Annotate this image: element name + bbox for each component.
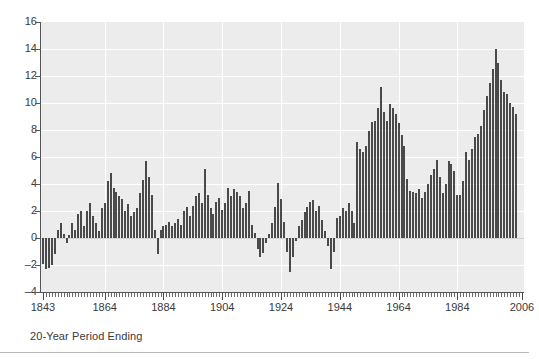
x-tick-major <box>522 293 523 300</box>
bar <box>448 161 450 238</box>
x-tick-minor <box>284 293 285 297</box>
x-tick-minor <box>155 293 156 297</box>
bar <box>80 211 82 238</box>
y-tick <box>35 184 41 185</box>
bar <box>142 180 144 238</box>
x-tick-minor <box>75 293 76 297</box>
x-tick-minor <box>272 293 273 297</box>
bar-series <box>41 22 524 292</box>
x-tick-minor <box>146 293 147 297</box>
x-tick-minor <box>501 293 502 297</box>
bar <box>365 146 367 238</box>
bar <box>60 223 62 238</box>
bar <box>189 216 191 238</box>
x-tick-minor <box>449 293 450 297</box>
x-tick-minor <box>240 293 241 297</box>
bar <box>409 191 411 238</box>
bar <box>459 195 461 238</box>
y-axis-label: –4 <box>3 286 37 297</box>
bar <box>221 210 223 238</box>
bar <box>254 233 256 238</box>
x-tick-major <box>43 293 44 300</box>
x-tick-minor <box>225 293 226 297</box>
bar <box>127 204 129 238</box>
x-axis-caption: 20-Year Period Ending <box>30 330 142 342</box>
x-tick-major <box>105 293 106 300</box>
x-tick-minor <box>190 293 191 297</box>
bar <box>45 238 47 269</box>
bar <box>115 192 117 238</box>
bar <box>439 177 441 238</box>
bar <box>283 222 285 238</box>
bar <box>48 238 50 268</box>
x-tick-minor <box>422 293 423 297</box>
y-axis-label: 0 <box>3 232 37 243</box>
bar <box>101 208 103 238</box>
bar <box>86 211 88 238</box>
bar <box>412 192 414 238</box>
x-tick-minor <box>278 293 279 297</box>
x-tick-minor <box>87 293 88 297</box>
x-tick-minor <box>446 293 447 297</box>
bar <box>298 226 300 238</box>
bar <box>312 200 314 238</box>
x-tick-minor <box>481 293 482 297</box>
bar <box>251 225 253 239</box>
bar <box>124 211 126 238</box>
bar <box>315 211 317 238</box>
bar <box>201 203 203 238</box>
bar <box>427 184 429 238</box>
x-tick-minor <box>307 293 308 297</box>
x-tick-minor <box>128 293 129 297</box>
x-tick-minor <box>413 293 414 297</box>
x-tick-minor <box>67 293 68 297</box>
x-axis-label: 1924 <box>261 301 301 314</box>
bar <box>136 208 138 238</box>
x-tick-minor <box>369 293 370 297</box>
x-tick-minor <box>184 293 185 297</box>
bar <box>218 198 220 239</box>
bar <box>386 121 388 238</box>
x-tick-minor <box>131 293 132 297</box>
x-tick-minor <box>393 293 394 297</box>
x-tick-major <box>457 293 458 300</box>
y-tick <box>35 76 41 77</box>
x-tick-minor <box>463 293 464 297</box>
y-axis-label: 14 <box>3 43 37 54</box>
bar <box>77 214 79 238</box>
x-tick-minor <box>472 293 473 297</box>
x-tick-major <box>281 293 282 300</box>
bar <box>118 196 120 238</box>
bar <box>395 114 397 238</box>
bar <box>107 181 109 238</box>
bar <box>148 177 150 238</box>
x-tick-minor <box>410 293 411 297</box>
x-tick-minor <box>205 293 206 297</box>
bar <box>442 193 444 238</box>
x-tick-minor <box>443 293 444 297</box>
x-tick-minor <box>172 293 173 297</box>
x-tick-minor <box>213 293 214 297</box>
x-tick-minor <box>196 293 197 297</box>
y-tick <box>35 103 41 104</box>
bar <box>92 216 94 238</box>
y-tick <box>35 130 41 131</box>
bar <box>324 231 326 238</box>
bar <box>95 223 97 238</box>
x-tick-minor <box>504 293 505 297</box>
x-tick-minor <box>490 293 491 297</box>
bar <box>121 199 123 238</box>
x-tick-minor <box>404 293 405 297</box>
bar <box>277 183 279 238</box>
x-tick-minor <box>140 293 141 297</box>
bar <box>204 169 206 238</box>
x-axis-label: 1884 <box>143 301 183 314</box>
x-tick-minor <box>357 293 358 297</box>
x-tick-minor <box>78 293 79 297</box>
y-axis-label: 16 <box>3 16 37 27</box>
bar <box>168 222 170 238</box>
bar <box>227 188 229 238</box>
bar <box>145 161 147 238</box>
bar <box>177 219 179 238</box>
x-tick-minor <box>310 293 311 297</box>
